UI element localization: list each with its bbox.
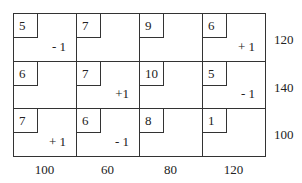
cost-box: 7 [77, 14, 101, 38]
cost-box: 1 [203, 109, 227, 133]
delta-value: +1 [115, 86, 129, 102]
cell-r1-c3: 9 [140, 14, 203, 62]
cell-r3-c3: 8 [140, 109, 203, 156]
transportation-table: 5 - 1 7 9 6 + 1 6 7 +1 10 5 - 1 7 + 1 6 … [13, 13, 266, 157]
cell-r2-c4: 5 - 1 [203, 62, 265, 109]
cost-box: 5 [14, 14, 38, 38]
cost-box: 6 [203, 14, 227, 38]
cost-box: 7 [14, 109, 38, 133]
cost-box: 6 [14, 62, 38, 86]
demand-col-4: 120 [202, 162, 265, 178]
cell-r2-c1: 6 [14, 62, 77, 109]
cell-r2-c3: 10 [140, 62, 203, 109]
cell-r1-c2: 7 [77, 14, 140, 62]
delta-value: + 1 [238, 39, 255, 55]
cost-box: 5 [203, 62, 227, 86]
cost-box: 8 [140, 109, 164, 133]
cell-r2-c2: 7 +1 [77, 62, 140, 109]
cost-box: 7 [77, 62, 101, 86]
cost-box: 6 [77, 109, 101, 133]
delta-value: - 1 [115, 134, 129, 150]
cell-r3-c4: 1 [203, 109, 265, 156]
delta-value: - 1 [52, 39, 66, 55]
supply-row-1: 120 [274, 32, 294, 48]
delta-value: - 1 [241, 86, 255, 102]
demand-col-3: 80 [139, 162, 202, 178]
demand-col-2: 60 [76, 162, 139, 178]
demand-col-1: 100 [13, 162, 76, 178]
cell-r3-c2: 6 - 1 [77, 109, 140, 156]
supply-row-3: 100 [274, 127, 294, 143]
cell-r3-c1: 7 + 1 [14, 109, 77, 156]
cell-r1-c1: 5 - 1 [14, 14, 77, 62]
supply-row-2: 140 [274, 80, 294, 96]
cost-box: 9 [140, 14, 164, 38]
cost-box: 10 [140, 62, 164, 86]
cell-r1-c4: 6 + 1 [203, 14, 265, 62]
delta-value: + 1 [49, 134, 66, 150]
